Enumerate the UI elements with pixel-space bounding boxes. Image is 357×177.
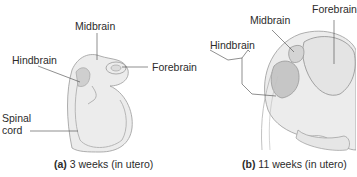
label-spinal-cord-line1: Spinal: [2, 112, 31, 124]
caption-b: (b) 11 weeks (in utero): [242, 158, 347, 170]
caption-a: (a) 3 weeks (in utero): [54, 158, 153, 170]
label-forebrain-b: Forebrain: [312, 3, 357, 15]
label-spinal-cord-line2: cord: [2, 124, 22, 136]
label-hindbrain-a: Hindbrain: [12, 54, 57, 66]
embryo-11-weeks-illustration: [180, 0, 356, 177]
caption-b-letter: (b): [242, 158, 255, 170]
caption-a-letter: (a): [54, 158, 67, 170]
caption-b-text: 11 weeks (in utero): [258, 158, 347, 170]
panel-b-11-weeks: Forebrain Midbrain Hindbrain (b) 11 week…: [180, 0, 356, 177]
label-midbrain-a: Midbrain: [75, 20, 115, 32]
label-midbrain-b: Midbrain: [250, 14, 290, 26]
panel-a-3-weeks: Midbrain Hindbrain Forebrain Spinal cord…: [0, 0, 180, 177]
caption-a-text: 3 weeks (in utero): [70, 158, 153, 170]
label-hindbrain-b: Hindbrain: [210, 39, 255, 51]
